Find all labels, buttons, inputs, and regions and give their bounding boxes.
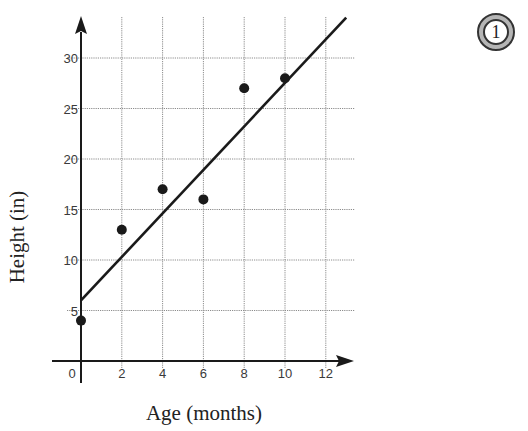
y-axis-arrow-icon — [75, 16, 87, 34]
y-tick-label: 15 — [64, 203, 78, 218]
y-tick-label: 30 — [64, 51, 78, 66]
y-tick-label: 25 — [64, 102, 78, 117]
problem-number: 1 — [483, 19, 509, 45]
x-tick-labels: 024681012 — [68, 366, 333, 381]
x-axis-title: Age (months) — [146, 401, 262, 425]
x-tick-label: 8 — [241, 366, 248, 381]
y-tick-label: 10 — [64, 253, 78, 268]
data-point — [280, 73, 290, 83]
x-tick-label: 4 — [159, 366, 166, 381]
data-point — [117, 225, 127, 235]
data-point — [76, 316, 86, 326]
x-tick-label: 2 — [118, 366, 125, 381]
data-point — [239, 83, 249, 93]
data-point — [198, 194, 208, 204]
x-tick-label: 0 — [68, 366, 75, 381]
x-tick-label: 10 — [278, 366, 292, 381]
x-tick-label: 6 — [200, 366, 207, 381]
scatter-chart: 024681012 51015202530 Age (months) Heigh… — [0, 0, 528, 431]
x-tick-label: 12 — [319, 366, 333, 381]
y-tick-label: 5 — [71, 304, 78, 319]
y-tick-label: 20 — [64, 152, 78, 167]
grid — [67, 17, 355, 369]
y-tick-labels: 51015202530 — [64, 51, 78, 319]
data-point — [158, 184, 168, 194]
y-axis-title: Height (in) — [5, 191, 29, 284]
problem-number-badge: 1 — [477, 13, 515, 51]
